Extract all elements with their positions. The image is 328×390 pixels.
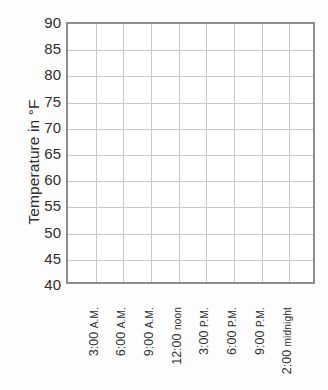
x-axis-tick-7: 9:00 P.M.	[251, 288, 269, 388]
x-tick-suffix: A.M.	[88, 307, 99, 328]
x-axis-tick-2: 6:00 A.M.	[112, 288, 130, 388]
y-axis-tick-85: 85	[30, 41, 61, 56]
x-axis-tick-6: 6:00 P.M.	[223, 288, 241, 388]
y-axis-tick-50: 50	[30, 224, 61, 239]
horizontal-gridline	[68, 207, 313, 208]
vertical-gridline	[96, 24, 97, 282]
x-axis-tick-8: 2:00 midnight	[278, 288, 296, 388]
x-tick-suffix: P.M.	[227, 307, 238, 327]
x-tick-suffix: P.M.	[199, 307, 210, 327]
horizontal-gridline	[68, 129, 313, 130]
horizontal-gridline	[68, 50, 313, 51]
y-axis-tick-45: 45	[30, 250, 61, 265]
x-tick-suffix: midnight	[282, 307, 293, 346]
x-axis-tick-4: 12:00 noon	[168, 288, 186, 388]
horizontal-gridline	[68, 260, 313, 261]
x-tick-suffix: P.M.	[254, 307, 265, 327]
x-axis-tick-labels: 3:00 A.M.6:00 A.M.9:00 A.M.12:00 noon3:0…	[66, 284, 315, 390]
x-tick-suffix: noon	[171, 307, 182, 330]
x-tick-time: 9:00	[252, 331, 266, 355]
vertical-gridline	[234, 24, 235, 282]
horizontal-gridline	[68, 181, 313, 182]
horizontal-gridline	[68, 76, 313, 77]
x-tick-time: 9:00	[142, 332, 156, 356]
horizontal-gridline	[68, 234, 313, 235]
x-axis-tick-3: 9:00 A.M.	[140, 288, 158, 388]
y-axis-tick-75: 75	[30, 93, 61, 108]
y-axis-tick-65: 65	[30, 146, 61, 161]
gridlines	[68, 24, 313, 282]
x-tick-time: 3:00	[86, 332, 100, 356]
vertical-gridline	[179, 24, 180, 282]
x-tick-time: 6:00	[114, 332, 128, 356]
vertical-gridline	[151, 24, 152, 282]
y-axis-tick-80: 80	[30, 67, 61, 82]
y-axis-tick-55: 55	[30, 198, 61, 213]
x-tick-time: 6:00	[225, 331, 239, 355]
x-tick-suffix: A.M.	[144, 307, 155, 328]
x-axis-tick-1: 3:00 A.M.	[85, 288, 103, 388]
y-axis-tick-40: 40	[30, 277, 61, 292]
vertical-gridline	[262, 24, 263, 282]
vertical-gridline	[289, 24, 290, 282]
vertical-gridline	[206, 24, 207, 282]
y-axis-tick-70: 70	[30, 119, 61, 134]
vertical-gridline	[123, 24, 124, 282]
y-axis-tick-90: 90	[30, 15, 61, 30]
x-axis-tick-5: 3:00 P.M.	[195, 288, 213, 388]
x-tick-time: 2:00	[280, 350, 294, 374]
temperature-grid-chart: Temperature in °F 9085807570656055504540…	[0, 0, 328, 390]
y-axis-tick-labels: 9085807570656055504540	[30, 22, 61, 284]
x-tick-time: 12:00	[169, 334, 183, 365]
y-axis-tick-60: 60	[30, 172, 61, 187]
horizontal-gridline	[68, 155, 313, 156]
x-tick-time: 3:00	[197, 331, 211, 355]
x-tick-suffix: A.M.	[116, 307, 127, 328]
plot-area[interactable]	[66, 22, 315, 284]
horizontal-gridline	[68, 103, 313, 104]
